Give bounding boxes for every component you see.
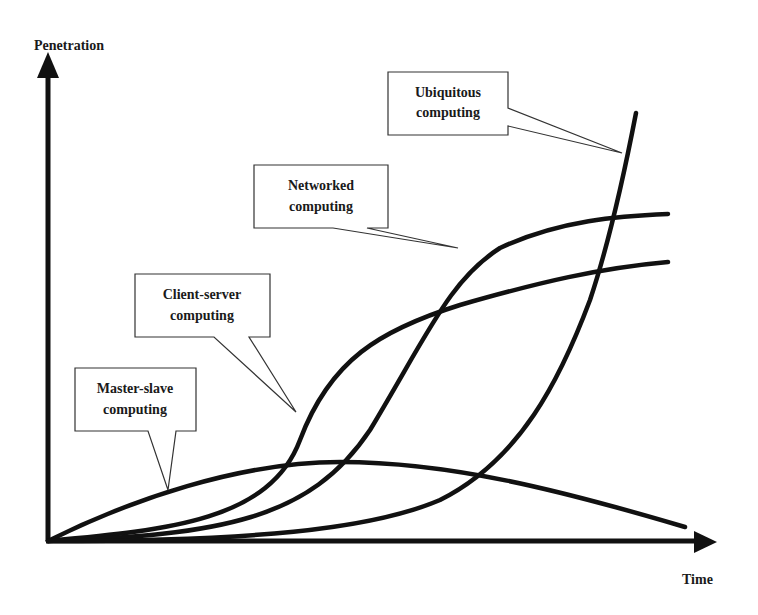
callout-text: Ubiquitous (415, 85, 482, 100)
callout-text: computing (416, 105, 480, 120)
callout-text: computing (103, 402, 167, 417)
callout-box (254, 165, 458, 248)
penetration-chart: Penetration Time Ubiquitous computing Ne… (0, 0, 758, 615)
callout-ubiquitous: Ubiquitous computing (388, 72, 622, 153)
callout-text: computing (170, 308, 234, 323)
callout-text: Networked (288, 178, 354, 193)
x-axis-label: Time (682, 572, 713, 587)
y-axis-arrow-icon (37, 52, 59, 78)
callout-networked: Networked computing (254, 165, 458, 248)
callout-text: computing (289, 199, 353, 214)
y-axis-label: Penetration (34, 38, 104, 53)
callout-text: Client-server (163, 287, 242, 302)
callout-master-slave: Master-slave computing (75, 368, 196, 490)
callout-text: Master-slave (97, 381, 173, 396)
x-axis-arrow-icon (694, 531, 717, 553)
